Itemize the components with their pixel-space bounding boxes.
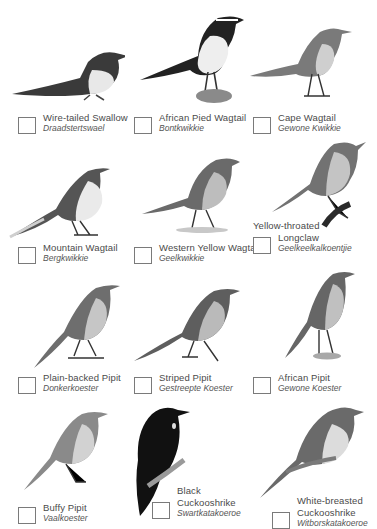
bird-entry: Black Cuckooshrike Swartkatakoeroe	[152, 485, 241, 519]
english-name: Striped Pipit	[159, 372, 233, 383]
afrikaans-name: Gewone Kwikkie	[278, 123, 341, 134]
bird-entry: Striped Pipit Gestreepte Koester	[134, 372, 233, 394]
english-name: Mountain Wagtail	[43, 242, 118, 253]
english-name: African Pipit	[278, 372, 341, 383]
cape-wagtail-illustration	[248, 24, 353, 99]
english-name: Buffy Pipit	[43, 502, 88, 513]
afrikaans-name: Geelkwikkie	[159, 253, 260, 264]
pied-wagtail-illustration	[138, 12, 248, 104]
african-pipit-illustration	[283, 268, 358, 363]
checkbox-western-yellow-wagtail[interactable]	[134, 247, 152, 264]
english-name: Cape Wagtail	[278, 112, 341, 123]
afrikaans-name: Gestreepte Koester	[159, 383, 233, 394]
bird-entry: Yellow-throated Longclaw Geelkeelkalkoen…	[253, 220, 352, 254]
white-breasted-cuckooshrike-illustration	[256, 400, 366, 500]
bird-entry: African Pipit Gewone Koester	[253, 372, 341, 394]
bird-entry: Mountain Wagtail Bergkwikkie	[18, 242, 118, 264]
plain-backed-pipit-illustration	[30, 278, 125, 370]
checkbox-african-pipit[interactable]	[253, 377, 271, 394]
bird-entry: Wire-tailed Swallow Draadstertswael	[18, 112, 128, 134]
checkbox-buffy-pipit[interactable]	[18, 507, 36, 524]
afrikaans-name: Bontkwikkie	[159, 123, 246, 134]
english-name: African Pied Wagtail	[159, 112, 246, 123]
english-name-line-1: White-breasted	[297, 495, 368, 506]
afrikaans-name: Vaalkoester	[43, 513, 88, 524]
mountain-wagtail-illustration	[8, 163, 113, 241]
afrikaans-name: Gewone Koester	[278, 383, 341, 394]
english-name-line-2: Cuckooshrike	[177, 497, 241, 508]
english-name-line-1: Black	[177, 485, 241, 496]
english-name-line-2: Longclaw	[278, 232, 352, 243]
bird-entry: White-breasted Cuckooshrike Witborskatak…	[272, 495, 368, 529]
bird-entry: Cape Wagtail Gewone Kwikkie	[253, 112, 341, 134]
bird-entry: Western Yellow Wagtail Geelkwikkie	[134, 242, 260, 264]
english-name: Plain-backed Pipit	[43, 372, 121, 383]
afrikaans-name: Witborskatakoeroe	[297, 518, 368, 529]
checkbox-african-pied-wagtail[interactable]	[134, 117, 152, 134]
checkbox-cape-wagtail[interactable]	[253, 117, 271, 134]
afrikaans-name: Swartkatakoeroe	[177, 508, 241, 519]
checkbox-black-cuckooshrike[interactable]	[152, 502, 170, 519]
swallow-illustration	[10, 40, 125, 102]
afrikaans-name: Geelkeelkalkoentjie	[278, 243, 352, 254]
striped-pipit-illustration	[132, 281, 244, 367]
checkbox-mountain-wagtail[interactable]	[18, 247, 36, 264]
english-name: Wire-tailed Swallow	[43, 112, 128, 123]
english-name-line-2: Cuckooshrike	[297, 507, 368, 518]
checkbox-yellow-throated-longclaw[interactable]	[253, 237, 271, 254]
yellow-wagtail-illustration	[140, 154, 245, 234]
english-name-line-1: Yellow-throated	[253, 220, 352, 231]
checkbox-white-breasted-cuckooshrike[interactable]	[272, 512, 290, 529]
afrikaans-name: Donkerkoester	[43, 383, 121, 394]
afrikaans-name: Draadstertswael	[43, 123, 128, 134]
checkbox-striped-pipit[interactable]	[134, 377, 152, 394]
checkbox-wire-tailed-swallow[interactable]	[18, 117, 36, 134]
bird-entry: Plain-backed Pipit Donkerkoester	[18, 372, 121, 394]
buffy-pipit-illustration	[22, 406, 112, 496]
checkbox-plain-backed-pipit[interactable]	[18, 377, 36, 394]
english-name: Western Yellow Wagtail	[159, 242, 260, 253]
bird-entry: African Pied Wagtail Bontkwikkie	[134, 112, 246, 134]
afrikaans-name: Bergkwikkie	[43, 253, 118, 264]
longclaw-illustration	[268, 140, 368, 230]
bird-entry: Buffy Pipit Vaalkoester	[18, 502, 88, 524]
